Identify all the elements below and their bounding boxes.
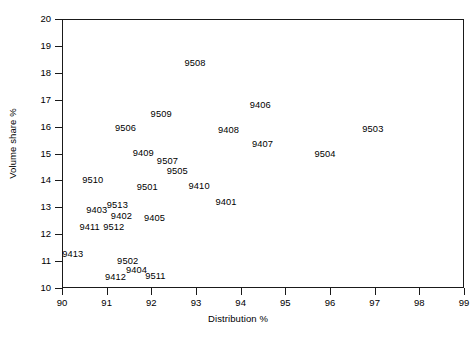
x-tick-label: 94 <box>229 298 253 308</box>
y-tick-label: 18 <box>29 68 51 78</box>
y-tick-mark <box>55 207 62 208</box>
x-tick-mark <box>330 288 331 295</box>
data-point-label: 9507 <box>157 158 178 167</box>
data-point-label: 9511 <box>145 272 165 281</box>
data-point-label: 9510 <box>82 177 103 186</box>
y-tick-mark <box>55 73 62 74</box>
x-tick-label: 93 <box>184 298 208 308</box>
data-point-label: 9506 <box>115 124 136 133</box>
y-tick-mark <box>55 180 62 181</box>
x-tick-label: 97 <box>363 298 387 308</box>
y-tick-mark <box>55 261 62 262</box>
data-point-label: 9407 <box>252 141 273 150</box>
data-point-label: 9410 <box>189 183 210 192</box>
data-point-label: 9509 <box>151 110 172 119</box>
x-tick-mark <box>464 288 465 295</box>
x-tick-label: 99 <box>452 298 476 308</box>
y-tick-label: 17 <box>29 95 51 105</box>
data-point-label: 9501 <box>137 184 158 193</box>
y-tick-label: 10 <box>29 283 51 293</box>
x-tick-mark <box>151 288 152 295</box>
y-tick-label: 16 <box>29 122 51 132</box>
x-axis-title: Distribution % <box>0 313 476 324</box>
y-tick-label: 13 <box>29 202 51 212</box>
x-tick-label: 96 <box>318 298 342 308</box>
page-caption-artifact <box>0 327 476 337</box>
data-point-label: 9513 <box>107 202 128 211</box>
y-tick-mark <box>55 19 62 20</box>
x-tick-label: 95 <box>273 298 297 308</box>
x-tick-mark <box>419 288 420 295</box>
data-point-label: 9401 <box>215 199 236 208</box>
y-tick-mark <box>55 288 62 289</box>
x-tick-label: 91 <box>95 298 119 308</box>
x-tick-mark <box>375 288 376 295</box>
data-point-label: 9505 <box>167 168 188 177</box>
data-point-label: 9413 <box>62 251 83 260</box>
y-tick-label: 14 <box>29 175 51 185</box>
scatter-chart: 1011121314151617181920 90919293949596979… <box>0 0 476 338</box>
y-tick-label: 20 <box>29 14 51 24</box>
x-tick-label: 98 <box>407 298 431 308</box>
y-tick-mark <box>55 234 62 235</box>
data-point-label: 9508 <box>185 60 206 69</box>
data-point-label: 9404 <box>126 266 147 275</box>
y-tick-mark <box>55 46 62 47</box>
x-tick-mark <box>196 288 197 295</box>
data-point-label: 9512 <box>103 224 124 233</box>
plot-area <box>62 19 464 288</box>
x-tick-label: 90 <box>50 298 74 308</box>
data-point-label: 9405 <box>144 214 165 223</box>
x-tick-mark <box>62 288 63 295</box>
data-point-label: 9402 <box>111 213 132 222</box>
x-tick-mark <box>241 288 242 295</box>
data-point-label: 9409 <box>133 149 154 158</box>
x-tick-mark <box>107 288 108 295</box>
y-tick-label: 19 <box>29 41 51 51</box>
y-tick-mark <box>55 100 62 101</box>
data-point-label: 9403 <box>86 207 107 216</box>
data-point-label: 9408 <box>218 127 239 136</box>
y-tick-label: 15 <box>29 149 51 159</box>
x-tick-label: 92 <box>139 298 163 308</box>
data-point-label: 9406 <box>250 101 271 110</box>
data-point-label: 9412 <box>105 273 126 282</box>
y-tick-label: 12 <box>29 229 51 239</box>
data-point-label: 9411 <box>79 224 99 233</box>
y-tick-mark <box>55 154 62 155</box>
x-tick-mark <box>285 288 286 295</box>
data-point-label: 9503 <box>362 125 383 134</box>
data-point-label: 9504 <box>315 150 336 159</box>
y-axis-title: Volume share % <box>7 84 18 204</box>
y-tick-label: 11 <box>29 256 51 266</box>
y-tick-mark <box>55 127 62 128</box>
